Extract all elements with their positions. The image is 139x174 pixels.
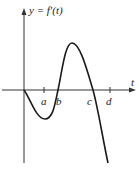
tick-label-c: c: [87, 95, 92, 107]
tick-label-b: b: [56, 95, 62, 107]
tick-label-a: a: [41, 95, 47, 107]
derivative-curve: [24, 43, 108, 163]
axes: [2, 8, 136, 163]
tick-label-d: d: [106, 95, 112, 107]
x-axis-arrow-icon: [129, 88, 136, 93]
y-axis-arrow-icon: [22, 8, 27, 15]
y-axis-label: y = f′(t): [28, 4, 63, 17]
derivative-graph: y = f′(t) t a b c d: [0, 0, 139, 174]
x-axis-label: t: [131, 76, 135, 88]
